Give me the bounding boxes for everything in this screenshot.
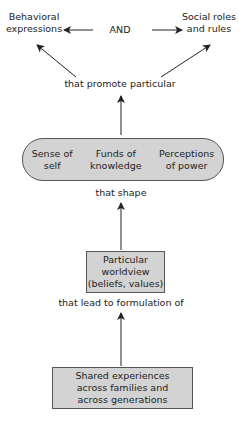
behavioral-line1: Behavioral (5, 11, 63, 23)
pill-item-line2: knowledge (90, 160, 142, 172)
shape-label: that shape (80, 187, 162, 199)
arrow-diag-left (37, 45, 76, 77)
social-line2: and rules (180, 23, 238, 35)
worldview-box: Particular worldview (beliefs, values) (86, 251, 165, 293)
identity-pill: Sense of self Funds of knowledge Percept… (22, 138, 224, 181)
worldview-line3: (beliefs, values) (88, 278, 164, 290)
experiences-line3: across generations (75, 394, 169, 406)
pill-item-line2: of power (159, 160, 214, 172)
worldview-line1: Particular (88, 254, 164, 266)
promote-label: that promote particular (60, 78, 180, 90)
arrows-layer (0, 0, 239, 424)
behavioral-line2: expressions (5, 23, 63, 35)
pill-item-perceptions-of-power: Perceptions of power (159, 148, 214, 172)
experiences-line2: across families and (75, 382, 169, 394)
and-connector-label: AND (105, 24, 135, 36)
experiences-box: Shared experiences across families and a… (52, 367, 193, 409)
pill-item-line1: Perceptions (159, 148, 214, 160)
arrow-diag-right (161, 45, 210, 77)
lead-label: that lead to formulation of (55, 297, 187, 309)
social-roles-label: Social roles and rules (180, 11, 238, 35)
behavioral-expressions-label: Behavioral expressions (5, 11, 63, 35)
pill-item-line1: Sense of (32, 148, 73, 160)
social-line1: Social roles (180, 11, 238, 23)
worldview-line2: worldview (88, 266, 164, 278)
pill-item-funds-of-knowledge: Funds of knowledge (90, 148, 142, 172)
experiences-line1: Shared experiences (75, 370, 169, 382)
pill-item-sense-of-self: Sense of self (32, 148, 73, 172)
pill-item-line1: Funds of (90, 148, 142, 160)
pill-item-line2: self (32, 160, 73, 172)
